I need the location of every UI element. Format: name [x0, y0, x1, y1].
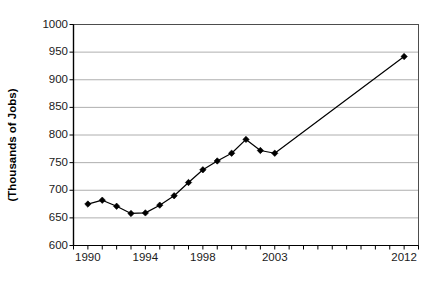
data-point-marker	[99, 197, 105, 203]
data-point-marker	[214, 158, 220, 164]
x-axis-tick-label: 2012	[391, 252, 417, 264]
data-point-marker	[113, 203, 119, 209]
data-point-marker	[142, 210, 148, 216]
x-axis-tick-label: 1998	[190, 252, 216, 264]
data-point-marker	[128, 210, 134, 216]
data-point-marker	[157, 202, 163, 208]
x-axis-tick-label: 2003	[262, 252, 288, 264]
plot-area	[0, 0, 437, 290]
x-axis-tick-labels: 19901994199820032012	[0, 252, 437, 270]
data-point-marker	[85, 201, 91, 207]
x-axis-ticks	[74, 246, 419, 250]
x-axis-tick-label: 1994	[133, 252, 159, 264]
gridlines	[74, 25, 419, 218]
chart-container: (Thousands of Jobs) 60065070075080085090…	[0, 0, 437, 290]
x-axis-tick-label: 1990	[75, 252, 101, 264]
